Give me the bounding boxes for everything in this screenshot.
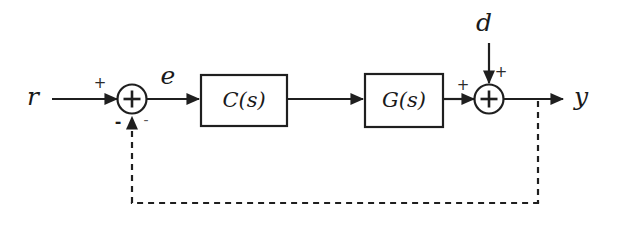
error-signal-label: e [161, 61, 176, 90]
disturbance-signal-label: d [476, 8, 492, 37]
sign-feedback-minus-right: - [143, 112, 148, 128]
sign-disturbance-plus: + [495, 63, 508, 81]
block-diagram-canvas: r + - - e C(s) G(s) + d + y [0, 0, 618, 228]
block-diagram: r + - - e C(s) G(s) + d + y [0, 0, 618, 228]
sign-feedback-minus-left: - [115, 112, 122, 131]
output-signal-label: y [573, 82, 589, 111]
controller-block-label: C(s) [222, 88, 265, 112]
reference-signal-label: r [27, 82, 41, 111]
sign-plant-output-plus: + [457, 76, 470, 94]
sign-reference-plus: + [94, 74, 107, 92]
plant-block-label: G(s) [382, 88, 426, 112]
